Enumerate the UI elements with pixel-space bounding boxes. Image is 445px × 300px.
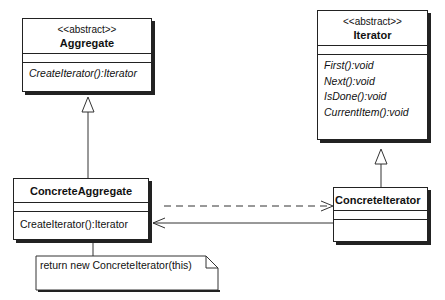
iterator-operations: First():void Next():void IsDone():void C… — [318, 55, 427, 123]
operation: CreateIterator():Iterator — [20, 217, 142, 233]
operation: First():void — [324, 58, 421, 74]
note-text: return new ConcreteIterator(this) — [40, 259, 192, 271]
iterator-stereotype: <<abstract>> — [320, 15, 425, 28]
operation: IsDone():void — [324, 89, 421, 105]
class-concrete-iterator[interactable]: ConcreteIterator — [333, 187, 428, 242]
concrete-iterator-operations — [334, 220, 427, 226]
concrete-aggregate-operations: CreateIterator():Iterator — [14, 212, 148, 236]
iterator-name: Iterator — [320, 28, 425, 42]
generalization-arrowhead-aggregate — [82, 97, 94, 112]
class-iterator[interactable]: <<abstract>> Iterator First():void Next(… — [317, 10, 428, 140]
iterator-attributes — [318, 46, 427, 55]
concrete-iterator-attributes — [334, 211, 427, 220]
concrete-aggregate-attributes — [14, 203, 148, 212]
operation: Next():void — [324, 74, 421, 90]
class-concrete-aggregate[interactable]: ConcreteAggregate CreateIterator():Itera… — [13, 178, 149, 240]
aggregate-stereotype: <<abstract>> — [25, 23, 149, 36]
operation: CreateIterator():Iterator — [29, 66, 145, 82]
aggregate-attributes — [23, 54, 151, 63]
aggregate-operations: CreateIterator():Iterator — [23, 63, 151, 85]
concrete-aggregate-name: ConcreteAggregate — [16, 184, 146, 198]
generalization-arrowhead-iterator — [375, 149, 387, 164]
operation: CurrentItem():void — [324, 105, 421, 121]
concrete-iterator-name: ConcreteIterator — [335, 193, 426, 207]
class-aggregate[interactable]: <<abstract>> Aggregate CreateIterator():… — [22, 18, 152, 92]
aggregate-name: Aggregate — [25, 36, 149, 50]
